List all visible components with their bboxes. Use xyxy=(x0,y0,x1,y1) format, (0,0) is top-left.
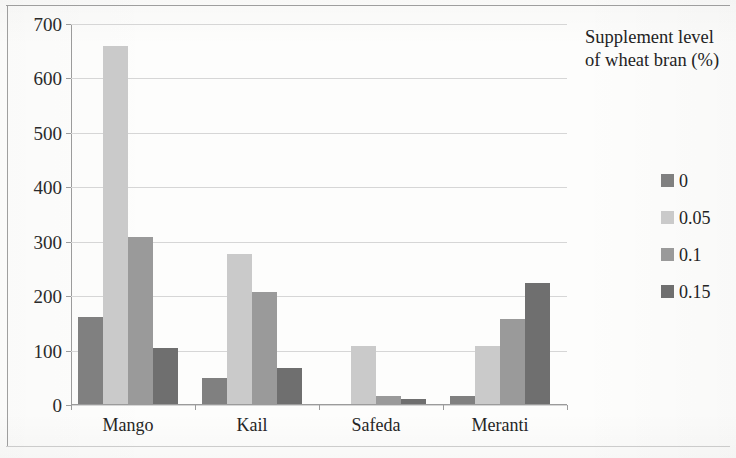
y-tick-mark-700 xyxy=(66,24,71,25)
y-tick-label-100: 100 xyxy=(34,341,63,360)
y-tick-label-400: 400 xyxy=(34,178,63,197)
y-tick-label-700: 700 xyxy=(34,15,63,34)
bar-safeda-0.05 xyxy=(351,346,376,404)
legend-label-0.15: 0.15 xyxy=(679,283,711,301)
y-tick-label-600: 600 xyxy=(34,69,63,88)
legend-title-line-1: Supplement level xyxy=(585,26,735,49)
legend-title-line-2: of wheat bran (%) xyxy=(585,49,735,72)
legend-swatch-icon-0 xyxy=(661,174,674,187)
legend-label-0.05: 0.05 xyxy=(679,209,711,227)
legend-item-0.1[interactable]: 0.1 xyxy=(661,236,711,273)
legend-swatch-icon-0.1 xyxy=(661,248,674,261)
chart-screenshot: 0100200300400500600700 MangoKailSafedaMe… xyxy=(0,0,736,458)
bar-safeda-0.1 xyxy=(376,396,401,404)
bar-kail-0.1 xyxy=(252,292,277,404)
bar-group-kail xyxy=(202,24,302,404)
y-tick-label-200: 200 xyxy=(34,287,63,306)
bar-group-meranti xyxy=(450,24,550,404)
legend-swatch-icon-0.05 xyxy=(661,211,674,224)
legend-label-0: 0 xyxy=(679,172,688,190)
bar-safeda-0.15 xyxy=(401,399,426,404)
y-tick-mark-100 xyxy=(66,351,71,352)
bar-group-mango xyxy=(78,24,178,404)
x-tick-mark-end xyxy=(567,405,568,410)
y-tick-mark-600 xyxy=(66,78,71,79)
plot-area: 0100200300400500600700 MangoKailSafedaMe… xyxy=(71,24,567,405)
y-tick-mark-500 xyxy=(66,133,71,134)
x-tick-mark-1 xyxy=(195,405,196,410)
y-tick-mark-400 xyxy=(66,187,71,188)
legend-item-0.05[interactable]: 0.05 xyxy=(661,199,711,236)
x-tick-mark-2 xyxy=(319,405,320,410)
bar-meranti-0.15 xyxy=(525,283,550,404)
bar-mango-0.15 xyxy=(153,348,178,404)
y-axis-line xyxy=(71,24,72,405)
y-tick-mark-200 xyxy=(66,296,71,297)
x-tick-mark-0 xyxy=(71,405,72,410)
bar-kail-0.05 xyxy=(227,254,252,404)
bar-kail-0.15 xyxy=(277,368,302,404)
bar-mango-0.1 xyxy=(128,237,153,404)
bar-group-safeda xyxy=(326,24,426,404)
page-border-top xyxy=(6,5,730,6)
legend-item-0[interactable]: 0 xyxy=(661,162,711,199)
x-axis-label-meranti: Meranti xyxy=(472,416,529,434)
y-tick-label-0: 0 xyxy=(53,396,63,415)
x-axis-label-kail: Kail xyxy=(237,416,268,434)
legend-item-0.15[interactable]: 0.15 xyxy=(661,273,711,310)
legend-swatch-icon-0.15 xyxy=(661,285,674,298)
legend-label-0.1: 0.1 xyxy=(679,246,702,264)
x-axis-label-mango: Mango xyxy=(103,416,154,434)
x-axis-label-safeda: Safeda xyxy=(352,416,401,434)
y-tick-mark-300 xyxy=(66,242,71,243)
bar-kail-0 xyxy=(202,378,227,404)
y-tick-label-500: 500 xyxy=(34,123,63,142)
bar-meranti-0.1 xyxy=(500,319,525,404)
legend-title: Supplement level of wheat bran (%) xyxy=(585,26,735,71)
page-border-bottom xyxy=(6,446,730,447)
page-border-left xyxy=(7,6,8,446)
y-tick-label-300: 300 xyxy=(34,232,63,251)
bar-mango-0.05 xyxy=(103,46,128,404)
bar-meranti-0.05 xyxy=(475,346,500,404)
legend: 00.050.10.15 xyxy=(661,162,711,310)
bar-mango-0 xyxy=(78,317,103,404)
x-tick-mark-3 xyxy=(443,405,444,410)
bar-meranti-0 xyxy=(450,396,475,404)
